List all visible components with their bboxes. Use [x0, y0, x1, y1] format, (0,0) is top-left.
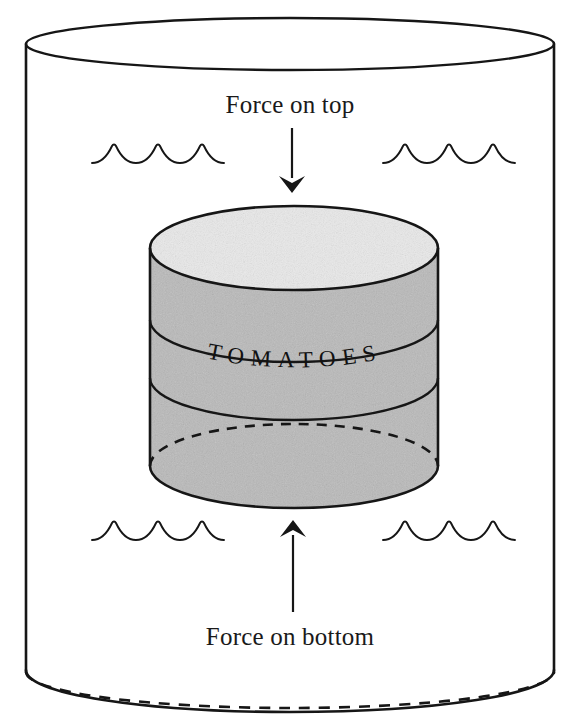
- tank-bottom-hidden-edge: [26, 672, 554, 708]
- tank-bottom-front-edge: [26, 670, 554, 712]
- wave-upper-right: [383, 145, 515, 164]
- physics-diagram-figure: Force on top: [0, 0, 580, 726]
- force-on-top-label: Force on top: [226, 91, 355, 118]
- force-on-bottom-group: Force on bottom: [206, 520, 375, 650]
- wave-upper-left: [92, 145, 224, 164]
- force-on-top-group: Force on top: [226, 91, 355, 193]
- tomato-can: TOMATOES: [148, 206, 440, 510]
- wave-lower-left: [92, 522, 224, 541]
- diagram-canvas: Force on top: [0, 0, 580, 726]
- force-on-top-arrow-head: [279, 176, 305, 193]
- wave-lower-right: [383, 522, 515, 541]
- force-on-bottom-label: Force on bottom: [206, 623, 375, 650]
- tank-top-rim: [26, 18, 554, 70]
- force-on-bottom-arrow-head: [280, 520, 306, 537]
